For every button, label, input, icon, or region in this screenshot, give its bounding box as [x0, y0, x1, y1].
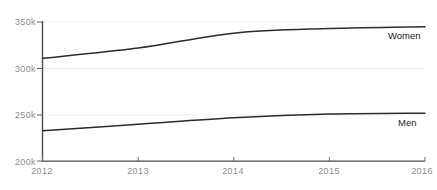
x-tick-label-2013: 2013: [118, 166, 158, 176]
x-tick-label-2016: 2016: [402, 166, 437, 176]
series-label-women: Women: [388, 30, 421, 41]
x-tick-label-2014: 2014: [213, 166, 253, 176]
series-line-women: [43, 27, 426, 59]
x-tick-label-2015: 2015: [309, 166, 349, 176]
y-axis-ticks: [37, 22, 42, 161]
gridlines: [42, 22, 425, 115]
series-label-men: Men: [398, 117, 416, 128]
x-axis-ticks: [43, 157, 426, 161]
y-tick-label-250k: 250k: [2, 110, 36, 120]
x-tick-label-2012: 2012: [22, 166, 62, 176]
series-line-men: [43, 113, 426, 131]
y-tick-label-300k: 300k: [2, 64, 36, 74]
y-tick-label-350k: 350k: [2, 17, 36, 27]
